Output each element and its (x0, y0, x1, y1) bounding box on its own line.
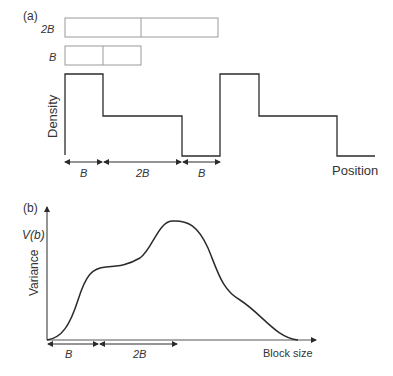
block-size-axis-label: Block size (263, 347, 313, 359)
interval-b-1: B (65, 348, 72, 360)
interval-b-2: 2B (132, 348, 146, 360)
position-axis-label: Position (332, 163, 378, 178)
density-step-curve (65, 74, 375, 156)
block-b-label: B (49, 51, 56, 63)
variance-axis-label: Variance (27, 249, 41, 296)
interval-a-1: B (80, 167, 87, 179)
panel-b-label: (b) (23, 201, 38, 215)
panel-a: (a) 2B B Density B 2B B Position (23, 9, 378, 179)
block-2b-label: 2B (40, 23, 54, 35)
variance-curve (47, 221, 298, 340)
figure: (a) 2B B Density B 2B B Position (b) V(b… (0, 0, 393, 376)
vb-tick-label: V(b) (22, 228, 45, 242)
density-axis-label: Density (45, 94, 60, 138)
interval-a-2: 2B (135, 167, 149, 179)
interval-a-3: B (198, 167, 205, 179)
panel-a-label: (a) (23, 9, 38, 23)
panel-b: (b) V(b) Variance B 2B Block size (22, 201, 316, 360)
